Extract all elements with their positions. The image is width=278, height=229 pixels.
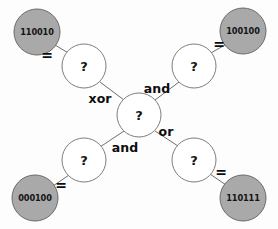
diagram-canvas: 110010100100000100110111 ????? ====xoran… [0, 0, 278, 229]
given-node-value: 100100 [226, 26, 260, 36]
unknown-node-label: ? [190, 153, 198, 168]
boolean-operator-label: and [144, 81, 170, 96]
unknown-node-label: ? [80, 153, 88, 168]
given-node-value: 110111 [226, 193, 260, 203]
equality-operator-label: = [215, 164, 227, 180]
equality-operator-label: = [55, 177, 67, 193]
boolean-operator-label: xor [89, 91, 113, 106]
unknown-node-label: ? [190, 59, 198, 74]
boolean-operator-label: or [159, 124, 175, 139]
boolean-constraint-diagram: 110010100100000100110111 ????? ====xoran… [0, 0, 278, 229]
given-node-value: 110010 [20, 27, 54, 37]
equality-operator-label: = [41, 47, 53, 63]
boolean-operator-label: and [112, 140, 138, 155]
given-node-value: 000100 [18, 193, 52, 203]
unknown-nodes-layer: ????? [62, 44, 216, 182]
unknown-node-label: ? [80, 59, 88, 74]
equality-operator-label: = [213, 36, 225, 52]
unknown-node-label: ? [135, 108, 143, 123]
